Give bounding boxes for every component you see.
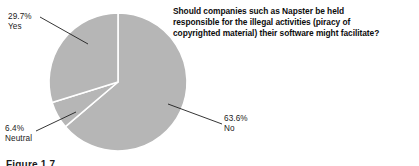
pie-label-yes: 29.7% Yes — [8, 12, 32, 31]
pie-label-yes-percent: 29.7% — [8, 12, 32, 22]
chart-title-line-2: responsible for the illegal activities (… — [173, 17, 417, 28]
chart-title: Should companies such as Napster be held… — [173, 6, 417, 40]
chart-title-line-1: Should companies such as Napster be held — [173, 6, 417, 17]
pie-label-yes-category: Yes — [8, 22, 32, 32]
figure-caption: Figure 1.7 — [6, 159, 55, 166]
pie-label-neutral-category: Neutral — [5, 134, 32, 144]
chart-title-line-3: copyrighted material) their software mig… — [173, 28, 417, 39]
pie-label-no-percent: 63.6% — [224, 114, 248, 124]
pie-label-neutral: 6.4% Neutral — [5, 124, 32, 143]
figure-container: Should companies such as Napster be held… — [0, 0, 419, 166]
pie-label-neutral-percent: 6.4% — [5, 124, 32, 134]
pie-label-no-category: No — [224, 124, 248, 134]
pie-label-no: 63.6% No — [224, 114, 248, 133]
